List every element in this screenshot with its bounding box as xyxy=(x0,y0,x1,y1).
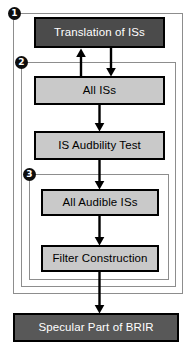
flowchart-diagram: Translation of ISs All ISs IS Audbility … xyxy=(0,0,190,353)
step-marker-2-icon: 2 xyxy=(15,56,28,69)
node-all-audible-iss[interactable]: All Audible ISs xyxy=(41,189,159,216)
node-filter-construction[interactable]: Filter Construction xyxy=(41,245,159,272)
step-marker-3-icon: 3 xyxy=(23,168,36,181)
node-all-iss[interactable]: All ISs xyxy=(34,76,165,105)
node-all-audible-label: All Audible ISs xyxy=(62,196,137,208)
node-specular-part-of-brir[interactable]: Specular Part of BRIR xyxy=(13,313,179,342)
step-marker-3-label: 3 xyxy=(26,170,32,179)
node-specular-label: Specular Part of BRIR xyxy=(38,321,153,333)
step-marker-1-label: 1 xyxy=(11,9,17,18)
node-translation-label: Translation of ISs xyxy=(54,26,145,38)
node-all-iss-label: All ISs xyxy=(83,84,116,96)
step-marker-1-icon: 1 xyxy=(8,7,21,20)
node-translation-of-iss[interactable]: Translation of ISs xyxy=(34,17,165,48)
node-filter-label: Filter Construction xyxy=(52,252,147,264)
step-marker-2-label: 2 xyxy=(18,58,24,67)
node-audibility-label: IS Audbility Test xyxy=(58,139,141,151)
node-is-audibility-test[interactable]: IS Audbility Test xyxy=(34,131,165,160)
